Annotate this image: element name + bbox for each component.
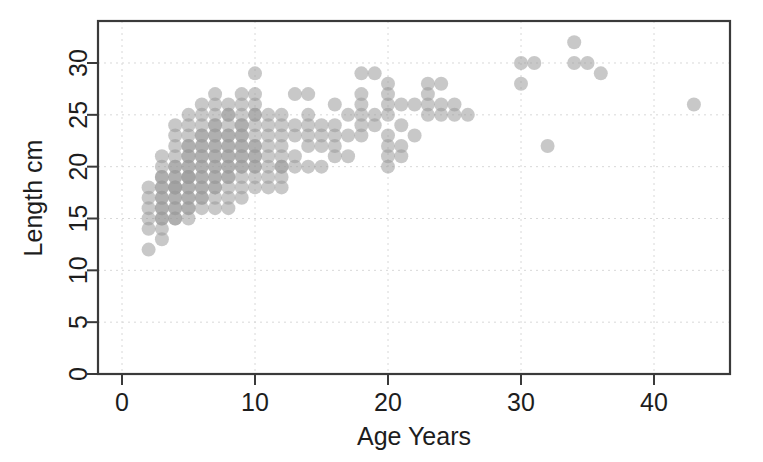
data-point bbox=[687, 97, 701, 111]
data-point bbox=[155, 149, 169, 163]
data-point bbox=[581, 56, 595, 70]
data-point bbox=[354, 66, 368, 80]
data-point bbox=[142, 180, 156, 194]
data-point bbox=[527, 56, 541, 70]
data-point bbox=[315, 160, 329, 174]
data-point bbox=[448, 97, 462, 111]
data-point bbox=[235, 87, 249, 101]
data-point bbox=[514, 77, 528, 91]
x-tick-label: 10 bbox=[241, 388, 269, 416]
data-point bbox=[301, 108, 315, 122]
data-point bbox=[567, 35, 581, 49]
x-tick-label: 0 bbox=[115, 388, 129, 416]
x-tick-label: 20 bbox=[374, 388, 402, 416]
scatter-plot-figure: 010203040 051015202530 Age Years Length … bbox=[0, 0, 763, 462]
data-point bbox=[301, 87, 315, 101]
data-point bbox=[541, 139, 555, 153]
data-point bbox=[381, 77, 395, 91]
data-point bbox=[408, 129, 422, 143]
data-point bbox=[567, 56, 581, 70]
y-tick-label: 20 bbox=[64, 153, 92, 181]
y-tick-label: 25 bbox=[64, 101, 92, 129]
data-point bbox=[195, 97, 209, 111]
data-point bbox=[514, 56, 528, 70]
data-point bbox=[288, 87, 302, 101]
data-point bbox=[408, 97, 422, 111]
data-point bbox=[341, 108, 355, 122]
data-point bbox=[368, 108, 382, 122]
x-tick-label: 40 bbox=[640, 388, 668, 416]
y-tick-label: 5 bbox=[64, 315, 92, 329]
x-axis-ticks: 010203040 bbox=[115, 374, 668, 416]
x-axis-title: Age Years bbox=[357, 422, 471, 450]
data-point bbox=[434, 97, 448, 111]
data-point bbox=[394, 97, 408, 111]
data-point bbox=[221, 97, 235, 111]
data-point bbox=[288, 149, 302, 163]
data-point bbox=[142, 243, 156, 257]
data-point bbox=[594, 66, 608, 80]
data-point bbox=[275, 108, 289, 122]
y-tick-label: 10 bbox=[64, 256, 92, 284]
data-point bbox=[368, 66, 382, 80]
data-point bbox=[341, 129, 355, 143]
y-axis-ticks: 051015202530 bbox=[64, 49, 98, 381]
x-tick-label: 30 bbox=[507, 388, 535, 416]
data-point bbox=[288, 118, 302, 132]
data-point bbox=[394, 139, 408, 153]
y-tick-label: 15 bbox=[64, 205, 92, 233]
data-point bbox=[394, 118, 408, 132]
y-tick-label: 0 bbox=[64, 367, 92, 381]
data-point bbox=[248, 87, 262, 101]
data-point bbox=[381, 129, 395, 143]
data-point bbox=[182, 108, 196, 122]
y-tick-label: 30 bbox=[64, 49, 92, 77]
data-point bbox=[248, 66, 262, 80]
data-point bbox=[328, 97, 342, 111]
y-axis-title: Length cm bbox=[19, 140, 47, 257]
data-point bbox=[341, 149, 355, 163]
plot-canvas: 010203040 051015202530 Age Years Length … bbox=[0, 0, 763, 462]
data-point bbox=[328, 118, 342, 132]
data-point bbox=[434, 77, 448, 91]
data-point bbox=[208, 87, 222, 101]
data-point-group bbox=[142, 35, 701, 256]
data-point bbox=[421, 77, 435, 91]
data-point bbox=[261, 108, 275, 122]
data-point bbox=[354, 87, 368, 101]
data-point bbox=[168, 118, 182, 132]
data-point bbox=[315, 118, 329, 132]
data-point bbox=[461, 108, 475, 122]
data-point bbox=[301, 160, 315, 174]
